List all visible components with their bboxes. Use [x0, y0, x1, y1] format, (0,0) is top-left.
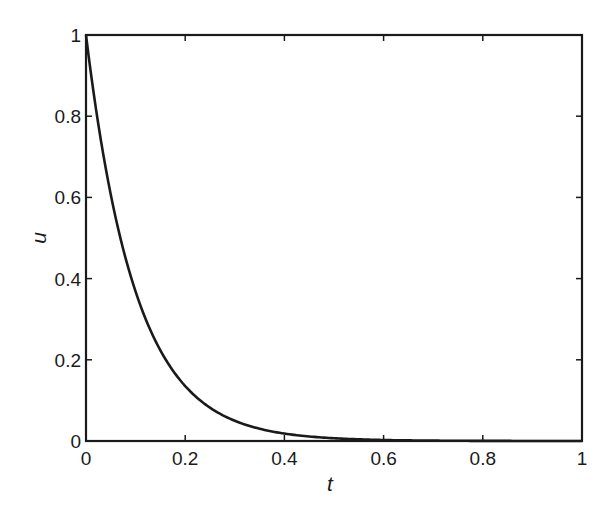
y-tick-label: 0: [70, 431, 81, 452]
x-tick-label: 0.2: [172, 448, 198, 469]
x-tick-label: 0.6: [370, 448, 396, 469]
line-chart: 00.20.40.60.8100.20.40.60.81tu: [0, 0, 616, 511]
series-line-u: [86, 35, 582, 441]
y-tick-label: 0.6: [55, 187, 81, 208]
x-tick-label: 1: [577, 448, 588, 469]
x-tick-label: 0.8: [470, 448, 496, 469]
axes-box: [86, 35, 582, 441]
y-tick-label: 1: [70, 25, 81, 46]
x-tick-label: 0.4: [271, 448, 298, 469]
plot-area: 00.20.40.60.8100.20.40.60.81tu: [27, 25, 587, 495]
y-tick-label: 0.2: [55, 350, 81, 371]
x-tick-label: 0: [81, 448, 92, 469]
y-axis-label: u: [27, 232, 50, 244]
y-tick-label: 0.4: [55, 269, 82, 290]
y-tick-label: 0.8: [55, 106, 81, 127]
x-axis-label: t: [327, 472, 334, 495]
